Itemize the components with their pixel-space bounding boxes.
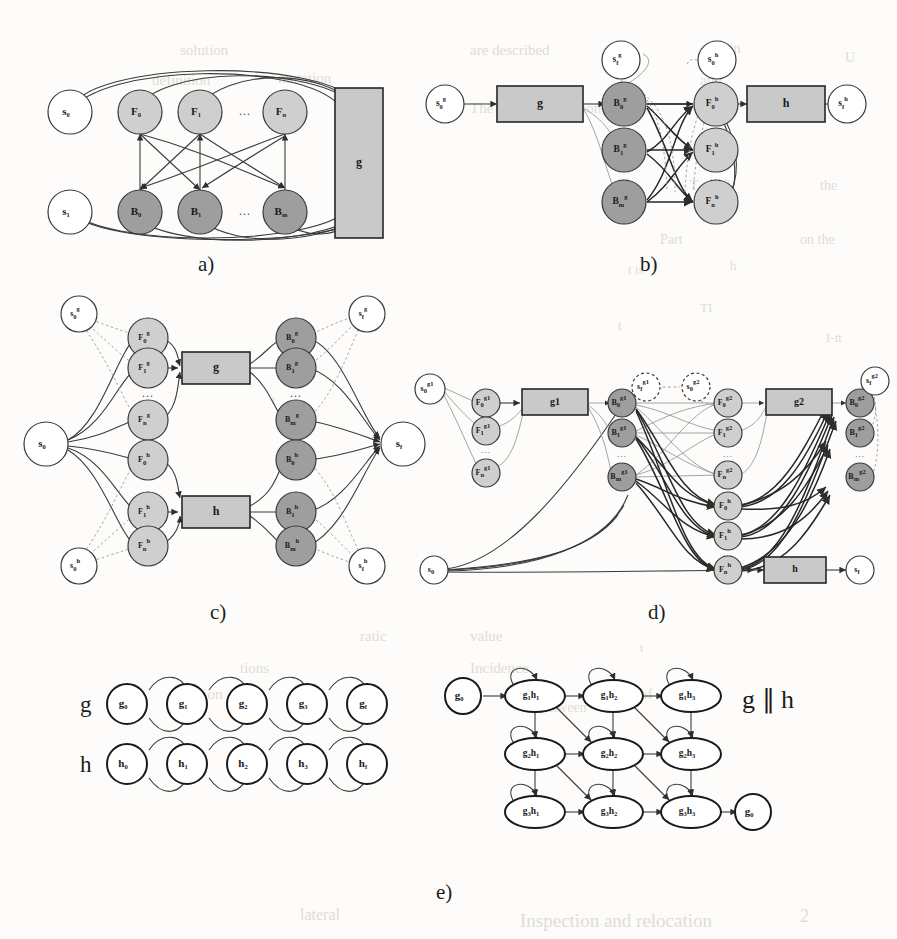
panel-c-node-sfh <box>349 548 385 584</box>
panel-c-diagram: s0g sfg s0h sfh s0 sf F0g F1g ... Fng F0… <box>22 290 432 590</box>
bleedthrough-line: TI <box>700 300 712 316</box>
panel-d-diagram: s0g1 F0g1 F1g1 ... Fng1 g1 B0g1 B1g1 ...… <box>428 365 888 595</box>
panel-a-diagram: g s0 F0 F1 ... Fn s1 B0 B1 ... Bm <box>40 50 400 250</box>
panel-b-node-f0h <box>694 82 738 126</box>
panel-c-node-b1g <box>276 348 316 388</box>
panel-d-ellipsis-col3a: ... <box>723 449 733 459</box>
bleedthrough-line: lateral <box>300 906 340 924</box>
bleedthrough-line: I-tt <box>826 330 842 346</box>
panel-e-node-gf <box>347 684 387 724</box>
panel-d-label: d) <box>648 600 666 625</box>
panel-d-box-g1-label: g1 <box>550 396 560 407</box>
panel-e-row-label-h: h <box>80 752 92 778</box>
panel-e-product-title: g ∥ h <box>742 684 794 715</box>
bleedthrough-line: value <box>470 628 502 645</box>
panel-d-box-g2-label: g2 <box>794 396 804 407</box>
panel-a-ellipsis-bottom: ... <box>239 204 251 218</box>
panel-b-node-f1h <box>694 128 738 172</box>
panel-c-node-f1g <box>128 348 168 388</box>
panel-b-node-sfh <box>828 85 866 123</box>
panel-b-box-g-label: g <box>537 96 543 110</box>
panel-a-node-s0 <box>48 90 92 134</box>
panel-d-node-s0-top <box>415 374 445 404</box>
panel-c-node-s0 <box>24 422 68 466</box>
panel-a-label: a) <box>198 252 214 277</box>
panel-a-node-s1 <box>48 190 92 234</box>
panel-c-node-s0h <box>61 548 97 584</box>
panel-d-box-h-label: h <box>792 563 798 574</box>
panel-c-node-sfg <box>349 296 385 332</box>
panel-b-label: b) <box>640 252 658 277</box>
panel-c-node-f0h <box>128 440 168 480</box>
panel-c-box-g-label: g <box>213 360 219 374</box>
panel-b-node-fnh <box>694 180 738 224</box>
panel-c-node-bmh <box>276 526 316 566</box>
bleedthrough-line: Inspection and relocation <box>520 910 712 932</box>
panel-d-node-sf-bottom <box>846 556 874 584</box>
panel-c-node-sf <box>381 422 425 466</box>
panel-e-chains: g0 g1 g2 g3 gf h0 h1 h2 h3 hf <box>105 672 435 802</box>
panel-c-box-h-label: h <box>213 504 220 518</box>
panel-c-node-fnh <box>128 526 168 566</box>
bleedthrough-line: t <box>618 318 622 334</box>
bleedthrough-line: h <box>730 258 737 274</box>
bleedthrough-line: ratic <box>360 628 387 645</box>
panel-b-diagram: s0g g sfg B0g B1g ... Bmg s0h F0h F1h ..… <box>435 42 865 252</box>
panel-b-node-b1g <box>602 128 646 172</box>
bleedthrough-line: t <box>640 640 644 656</box>
panel-c-node-b0h <box>276 440 316 480</box>
panel-a-box-g-label: g <box>356 155 362 169</box>
panel-b-node-sfg <box>602 41 640 79</box>
panel-e-row-label-g: g <box>80 692 92 718</box>
panel-b-node-s0g <box>426 85 464 123</box>
panel-b-node-b0g <box>602 82 646 126</box>
panel-a-ellipsis-top: ... <box>239 104 251 118</box>
panel-c-node-bmg <box>276 400 316 440</box>
panel-e-product-graph: g0 g1h1 g1h2 g1h3 g2h1 g2h2 g2h3 g3h1 g3… <box>445 668 775 838</box>
panel-c-ellipsis-b-g: ... <box>290 386 302 400</box>
panel-d-ellipsis-col2: ... <box>617 449 627 459</box>
panel-b-box-h-label: h <box>783 96 790 110</box>
bleedthrough-line: 2 <box>800 906 809 927</box>
figure-root: solutionare describedcanUdefinitionmutat… <box>0 0 897 939</box>
panel-d-ellipsis-col4: ... <box>855 449 865 459</box>
panel-c-ellipsis-f-g: ... <box>142 386 154 400</box>
panel-c-node-s0g <box>61 296 97 332</box>
panel-b-node-s0h <box>698 41 736 79</box>
panel-e-label: e) <box>436 880 452 905</box>
panel-c-node-fng <box>128 400 168 440</box>
panel-d-ellipsis-col1: ... <box>481 445 491 455</box>
panel-c-label: c) <box>210 600 226 625</box>
